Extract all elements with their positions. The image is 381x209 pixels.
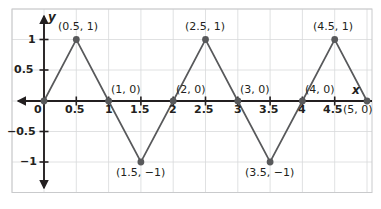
data-point — [267, 159, 274, 166]
point-label-3-5-neg-1: (3.5, −1) — [245, 166, 294, 179]
point-label-4-0: (4, 0) — [305, 83, 335, 96]
y-axis-label: y — [48, 10, 56, 24]
x-tick-label-1-5: 1.5 — [130, 103, 150, 116]
x-tick-label-0-5: 0.5 — [65, 103, 85, 116]
y-tick-label-1: 1 — [28, 33, 36, 46]
point-label-5-0: (5, 0) — [343, 103, 373, 116]
x-tick-label-2-5: 2.5 — [194, 103, 214, 116]
x-tick-label-1: 1 — [105, 103, 113, 116]
x-tick-label-3: 3 — [234, 103, 242, 116]
data-point — [202, 36, 209, 43]
point-label-0-5-1: (0.5, 1) — [58, 20, 98, 33]
x-axis-label: x — [352, 83, 360, 97]
y-tick-label-0-5: 0.5 — [14, 63, 34, 76]
point-label-1-0: (1, 0) — [111, 83, 141, 96]
y-tick-label-neg-0-5: −0.5 — [7, 125, 36, 138]
data-point — [73, 36, 80, 43]
y-tick-label-neg-1: −1 — [20, 155, 37, 168]
point-label-4-5-1: (4.5, 1) — [313, 20, 353, 33]
point-label-2-0: (2, 0) — [176, 83, 206, 96]
graph-figure: y x 0 0.5 1 1.5 2 2.5 3 3.5 4 4.5 1 0.5 … — [0, 0, 381, 209]
x-tick-label-3-5: 3.5 — [259, 103, 279, 116]
x-tick-label-4-5: 4.5 — [323, 103, 343, 116]
data-point — [331, 36, 338, 43]
x-tick-label-4: 4 — [298, 103, 306, 116]
x-tick-label-0: 0 — [34, 103, 42, 116]
point-label-1-5-neg-1: (1.5, −1) — [116, 166, 165, 179]
point-label-3-0: (3, 0) — [240, 83, 270, 96]
data-point — [138, 159, 145, 166]
point-label-2-5-1: (2.5, 1) — [185, 20, 225, 33]
x-tick-label-2: 2 — [169, 103, 177, 116]
